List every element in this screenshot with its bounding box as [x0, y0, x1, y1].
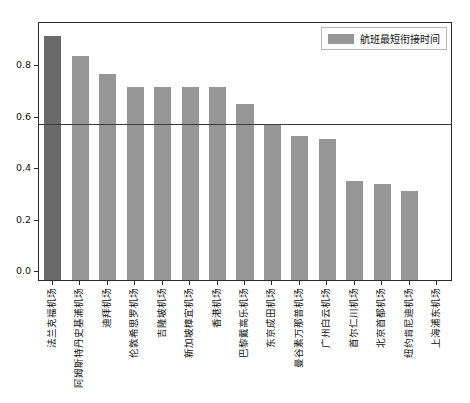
x-axis-tick-mark — [79, 281, 80, 285]
x-axis-tick-label: 迪拜机场 — [102, 288, 112, 328]
x-axis-tick-mark — [381, 281, 382, 285]
bar — [264, 125, 281, 280]
x-axis-tick-label: 香港机场 — [212, 288, 222, 328]
bar — [401, 191, 418, 280]
bar — [154, 87, 171, 280]
legend-label: 航班最短衔接时间 — [360, 31, 440, 46]
x-axis-tick-label: 上海浦东机场 — [432, 288, 442, 348]
x-axis-tick-label: 阿姆斯特丹史基浦机场 — [74, 288, 84, 388]
x-axis-tick-mark — [326, 281, 327, 285]
y-axis-tick-label: 0.6 — [16, 112, 31, 122]
x-axis-tick-mark — [52, 281, 53, 285]
y-axis-tick-label: 0.0 — [16, 266, 31, 276]
legend-swatch-icon — [328, 34, 354, 44]
bar-chart: 0.00.20.40.60.8 航班最短衔接时间 法兰克福机场阿姆斯特丹史基浦机… — [0, 0, 470, 403]
threshold-hline — [39, 124, 451, 125]
x-axis-tick-label: 曼谷素万那普机场 — [294, 288, 304, 368]
bar — [99, 74, 116, 280]
bar-series — [39, 23, 451, 280]
x-axis-tick-mark — [409, 281, 410, 285]
x-axis-tick-mark — [436, 281, 437, 285]
x-axis-tick-mark — [189, 281, 190, 285]
bar — [72, 56, 89, 280]
x-axis-tick-label: 东京成田机场 — [267, 288, 277, 348]
x-axis-tick-label: 纽约肯尼迪机场 — [404, 288, 414, 358]
bar — [209, 87, 226, 280]
x-axis-tick-mark — [134, 281, 135, 285]
bar — [291, 136, 308, 280]
x-axis-tick-label: 吉隆坡机场 — [157, 288, 167, 338]
bar — [346, 181, 363, 280]
x-axis-tick-mark — [107, 281, 108, 285]
x-axis: 法兰克福机场阿姆斯特丹史基浦机场迪拜机场伦敦希思罗机场吉隆坡机场新加坡樟宜机场香… — [38, 281, 452, 403]
x-axis-tick-mark — [162, 281, 163, 285]
x-axis-tick-mark — [271, 281, 272, 285]
bar — [319, 139, 336, 280]
x-axis-tick-mark — [217, 281, 218, 285]
y-axis: 0.00.20.40.60.8 — [0, 22, 38, 281]
x-axis-tick-mark — [244, 281, 245, 285]
x-axis-tick-label: 北京首都机场 — [377, 288, 387, 348]
bar — [374, 184, 391, 280]
x-axis-tick-label: 广州白云机场 — [322, 288, 332, 348]
x-axis-tick-label: 新加坡樟宜机场 — [184, 288, 194, 358]
x-axis-tick-label: 巴黎戴高乐机场 — [239, 288, 249, 358]
bar — [44, 36, 61, 280]
x-axis-tick-mark — [354, 281, 355, 285]
x-axis-tick-label: 法兰克福机场 — [47, 288, 57, 348]
x-axis-tick-label: 首尔仁川机场 — [349, 288, 359, 348]
x-axis-tick-label: 伦敦希思罗机场 — [129, 288, 139, 358]
y-axis-tick-label: 0.8 — [16, 60, 31, 70]
x-axis-tick-mark — [299, 281, 300, 285]
plot-area: 航班最短衔接时间 — [38, 22, 452, 281]
y-axis-tick-label: 0.4 — [16, 163, 31, 173]
y-axis-tick-label: 0.2 — [16, 215, 31, 225]
legend: 航班最短衔接时间 — [321, 27, 447, 50]
bar — [127, 87, 144, 280]
bar — [236, 104, 253, 280]
bar — [182, 87, 199, 280]
